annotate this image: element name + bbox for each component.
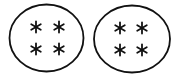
asterisk-icon (115, 45, 125, 56)
group-ellipse (10, 5, 84, 72)
asterisk-icon (31, 22, 41, 33)
asterisk-icon (115, 23, 125, 34)
group-ellipse (94, 6, 170, 73)
asterisk-icon (137, 23, 147, 34)
asterisk-icon (137, 45, 147, 56)
asterisk-icon (31, 44, 41, 55)
asterisk-icon (54, 44, 64, 55)
asterisk-icon (54, 22, 64, 33)
group-1 (10, 5, 84, 72)
group-2 (94, 6, 170, 73)
groups-diagram (0, 0, 177, 77)
